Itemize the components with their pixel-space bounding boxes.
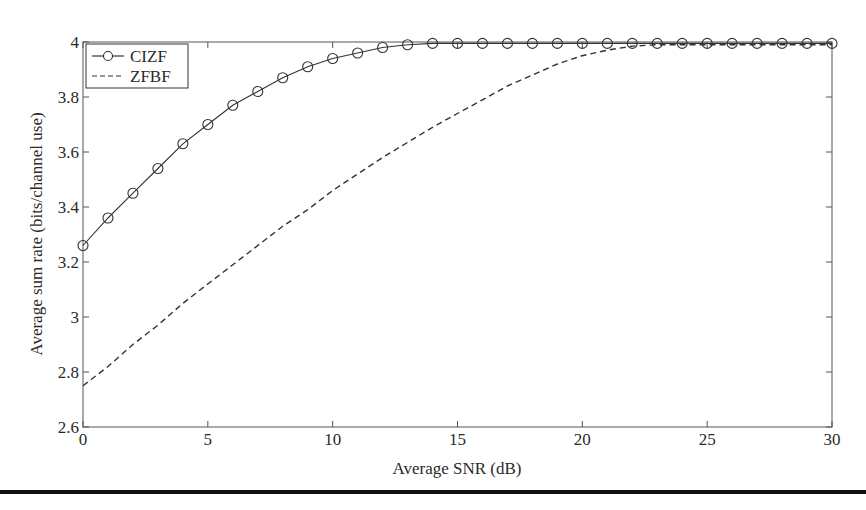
y-axis-ticks: 2.62.833.23.43.63.84	[58, 33, 832, 437]
y-tick-label: 3.6	[58, 143, 79, 162]
legend: CIZF ZFBF	[86, 44, 188, 88]
y-tick-label: 2.8	[58, 363, 79, 382]
y-tick-label: 2.6	[58, 418, 79, 437]
x-tick-label: 30	[824, 430, 841, 449]
y-tick-label: 3	[71, 308, 80, 327]
x-axis-label: Average SNR (dB)	[392, 459, 521, 478]
y-axis-label: Average sum rate (bits/channel use)	[27, 112, 46, 355]
axes-box	[83, 42, 832, 427]
plot-frame	[83, 42, 832, 427]
x-tick-label: 15	[449, 430, 466, 449]
x-axis-ticks: 051015202530	[79, 42, 841, 449]
x-tick-label: 0	[79, 430, 88, 449]
x-tick-label: 20	[574, 430, 591, 449]
series-line-zfbf	[83, 45, 832, 386]
y-tick-label: 3.2	[58, 253, 79, 272]
line-chart: 051015202530 2.62.833.23.43.63.84 CIZF Z…	[0, 0, 866, 510]
y-tick-label: 4	[71, 33, 80, 52]
x-tick-label: 5	[204, 430, 213, 449]
legend-label-cizf: CIZF	[130, 47, 167, 66]
legend-label-zfbf: ZFBF	[130, 67, 171, 86]
series-layer	[78, 38, 837, 385]
x-tick-label: 25	[699, 430, 716, 449]
y-tick-label: 3.4	[58, 198, 80, 217]
legend-circle-marker-icon	[104, 52, 113, 61]
y-tick-label: 3.8	[58, 88, 79, 107]
series-line-cizf	[83, 43, 832, 245]
x-tick-label: 10	[324, 430, 341, 449]
page-bottom-rule	[0, 490, 866, 494]
